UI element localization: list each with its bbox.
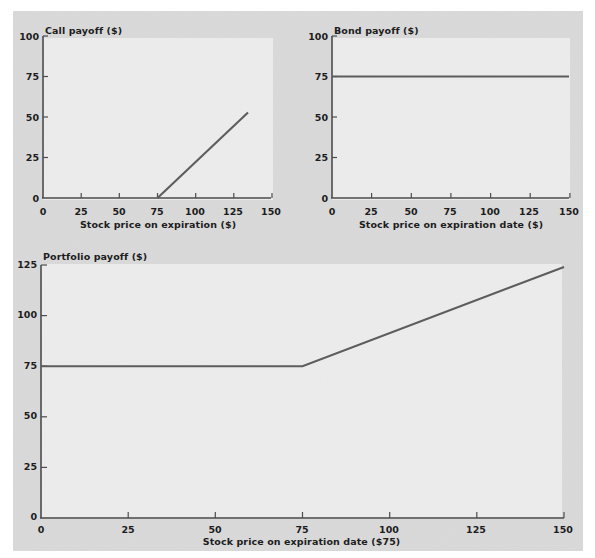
paper-background: Call payoff ($) 100 75 50 25 0 0 25 50 7… (13, 11, 583, 551)
data-line-portfolio (41, 267, 564, 366)
chart-portfolio-payoff: Portfolio payoff ($) 125 100 75 50 25 0 … (13, 237, 583, 551)
chart-bond-payoff: Bond payoff ($) 100 75 50 25 0 0 25 50 7… (300, 11, 583, 241)
plot-area-portfolio (13, 237, 583, 551)
plot-area-call (13, 11, 283, 241)
plot-area-bond (300, 11, 583, 241)
figure-page: Call payoff ($) 100 75 50 25 0 0 25 50 7… (0, 0, 595, 558)
chart-call-payoff: Call payoff ($) 100 75 50 25 0 0 25 50 7… (13, 11, 283, 241)
data-line-call (158, 112, 249, 198)
